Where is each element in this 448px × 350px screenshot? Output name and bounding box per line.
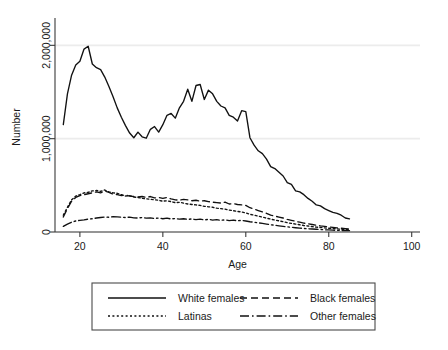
x-axis-title: Age — [228, 258, 247, 270]
series-line-white-females — [63, 46, 349, 219]
x-tick-label: 20 — [74, 240, 86, 252]
chart-legend: White femalesBlack femalesLatinasOther f… — [92, 283, 376, 330]
x-axis-ticks: 20406080100 — [74, 232, 421, 252]
axes-group — [55, 18, 420, 232]
y-tick-label: 2,000,000 — [40, 22, 52, 69]
x-tick-label: 100 — [403, 240, 421, 252]
chart-figure: 01,000,0002,000,000 20406080100 Number A… — [0, 0, 448, 350]
x-tick-label: 80 — [323, 240, 335, 252]
legend-label-black-females: Black females — [310, 292, 375, 304]
x-tick-label: 40 — [157, 240, 169, 252]
series-line-other-females — [63, 217, 349, 231]
series-line-latinas — [63, 190, 349, 230]
y-axis-ticks: 01,000,0002,000,000 — [40, 22, 55, 235]
y-tick-label: 1,000,000 — [40, 115, 52, 162]
y-axis-title: Number — [10, 108, 22, 146]
legend-box — [92, 283, 375, 330]
x-tick-label: 60 — [240, 240, 252, 252]
legend-label-other-females: Other females — [310, 310, 376, 322]
legend-label-white-females: White females — [178, 292, 245, 304]
y-tick-label: 0 — [40, 229, 52, 235]
line-chart: 01,000,0002,000,000 20406080100 Number A… — [0, 0, 448, 350]
legend-label-latinas: Latinas — [178, 310, 212, 322]
